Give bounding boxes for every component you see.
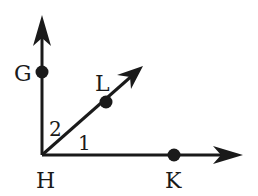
angle-label-2: 2 bbox=[49, 117, 62, 141]
ray-hk bbox=[42, 146, 243, 164]
angle-label-1: 1 bbox=[78, 131, 91, 155]
point-k bbox=[168, 149, 181, 162]
point-l bbox=[100, 96, 113, 109]
angle-diagram: G L K H 2 1 bbox=[0, 0, 258, 196]
label-l: L bbox=[95, 71, 110, 96]
label-g: G bbox=[14, 61, 32, 86]
label-k: K bbox=[165, 168, 182, 193]
ray-hl bbox=[42, 66, 143, 155]
point-g bbox=[36, 66, 49, 79]
diagram-canvas: G L K H 2 1 bbox=[0, 0, 258, 196]
label-h: H bbox=[36, 168, 55, 193]
